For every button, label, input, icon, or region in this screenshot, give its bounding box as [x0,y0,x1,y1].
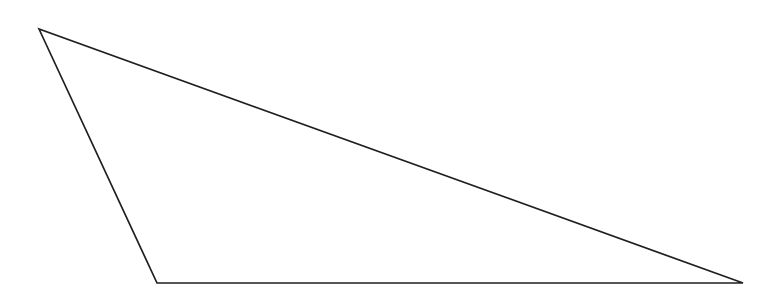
triangle-figure [0,0,782,302]
triangle-shape [39,29,743,283]
triangle-figure-canvas [0,0,782,302]
